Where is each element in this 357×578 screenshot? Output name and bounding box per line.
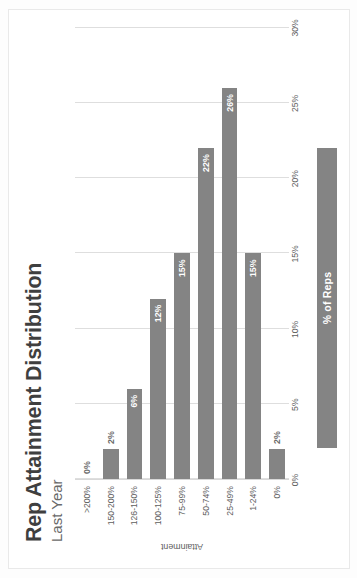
category-axis-title: Attainment	[151, 542, 213, 552]
bar-data-label: 15%	[176, 260, 186, 278]
category-axis: 0%1-24%25-49%50-74%75-99%100-125%126-150…	[75, 480, 289, 542]
bar[interactable]	[150, 299, 166, 479]
bar[interactable]	[269, 449, 285, 479]
slide-page-frame: Rep Attainment Distribution Last Year 0%…	[0, 0, 357, 578]
bar[interactable]	[245, 254, 261, 480]
bar-row: 22%	[197, 28, 213, 479]
category-axis-tick: 75-99%	[177, 486, 187, 516]
category-axis-tick: 126-150%	[129, 486, 139, 525]
category-axis-tick: 50-74%	[200, 486, 210, 516]
bar-data-label: 12%	[153, 305, 163, 323]
bar-row: 6%	[126, 28, 142, 479]
bar[interactable]	[174, 254, 190, 480]
bar-row: 26%	[221, 28, 237, 479]
category-axis-tick: 1-24%	[248, 486, 258, 511]
chart-legend: % of Reps	[317, 148, 337, 448]
category-axis-tick: 150-200%	[105, 486, 115, 525]
value-axis-tick: 10%	[290, 321, 300, 338]
bar-data-label: 15%	[248, 260, 258, 278]
bar-row: 0%	[79, 28, 95, 479]
bar[interactable]	[197, 148, 213, 479]
value-axis-tick: 0%	[290, 474, 300, 486]
value-axis-tick: 20%	[290, 170, 300, 187]
value-axis-tick: 15%	[290, 245, 300, 262]
bar[interactable]	[221, 88, 237, 479]
bar-row: 2%	[102, 28, 118, 479]
bar-data-label: 2%	[272, 431, 282, 444]
bar-data-label: 26%	[224, 94, 234, 112]
category-axis-tick: 0%	[272, 486, 282, 498]
category-axis-tick: 100-125%	[153, 486, 163, 525]
chart-title: Rep Attainment Distribution	[23, 222, 46, 542]
bar-data-label: 0%	[81, 461, 91, 474]
title-block: Rep Attainment Distribution Last Year	[23, 222, 64, 542]
chart-slide: Rep Attainment Distribution Last Year 0%…	[8, 9, 350, 569]
bar-data-label: 22%	[200, 154, 210, 172]
bar[interactable]	[102, 449, 118, 479]
bar-data-label: 2%	[105, 431, 115, 444]
plot-area: 0%1-24%25-49%50-74%75-99%100-125%126-150…	[75, 28, 289, 542]
value-axis-tick: 30%	[290, 19, 300, 36]
bar-row: 15%	[245, 28, 261, 479]
legend-series-label: % of Reps	[321, 272, 333, 325]
chart-grid-area: 2%15%26%22%15%12%6%2%0%	[75, 28, 289, 480]
bar-row: 2%	[269, 28, 285, 479]
category-axis-tick: >200%	[81, 486, 91, 513]
bar-row: 12%	[150, 28, 166, 479]
value-axis: 0%5%10%15%20%25%30%	[290, 28, 308, 480]
chart-subtitle: Last Year	[48, 222, 64, 542]
value-axis-tick: 5%	[290, 398, 300, 410]
bar-row: 15%	[174, 28, 190, 479]
value-axis-tick: 25%	[290, 95, 300, 112]
category-axis-tick: 25-49%	[224, 486, 234, 516]
bar-data-label: 6%	[129, 395, 139, 408]
